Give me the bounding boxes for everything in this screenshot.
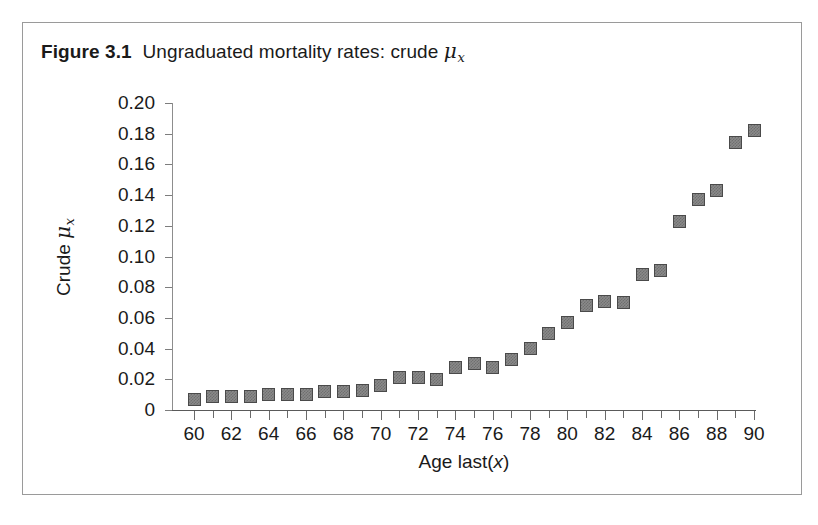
data-point: [617, 296, 630, 309]
figure-label: Figure 3.1: [41, 41, 132, 62]
y-axis-tick: 0.04: [165, 349, 172, 350]
x-axis-tick-label: 90: [743, 423, 764, 445]
y-axis-tick: 0.08: [165, 287, 172, 288]
x-axis-tick-minor: [213, 411, 214, 418]
x-axis-tick-minor: [437, 411, 438, 418]
x-axis-tick-minor: [250, 411, 251, 418]
data-point: [524, 342, 537, 355]
x-axis-title-close: ): [503, 451, 509, 472]
y-axis-mu-symbol: μ: [51, 226, 75, 239]
data-point: [449, 361, 462, 374]
data-point: [748, 124, 761, 137]
x-axis-tick-minor: [661, 411, 662, 418]
x-axis-tick-minor: [623, 411, 624, 418]
x-axis-title: Age last(x): [172, 451, 756, 473]
y-axis-tick-label: 0.16: [118, 153, 155, 175]
y-axis-line: [172, 103, 173, 411]
x-axis-tick-major: [754, 411, 755, 420]
y-axis-mu-subscript: x: [62, 218, 77, 225]
x-axis-tick-minor: [549, 411, 550, 418]
y-axis-tick: 0.18: [165, 134, 172, 135]
x-axis-tick-major: [269, 411, 270, 420]
figure-caption-text: Ungraduated mortality rates: crude: [143, 41, 439, 62]
x-axis-tick-label: 70: [370, 423, 391, 445]
y-axis-tick-label: 0.10: [118, 246, 155, 268]
x-axis-tick-label: 82: [594, 423, 615, 445]
x-axis-tick-label: 88: [706, 423, 727, 445]
data-point: [673, 215, 686, 228]
x-axis-tick-minor: [735, 411, 736, 418]
x-axis-tick-label: 66: [295, 423, 316, 445]
data-point: [244, 390, 257, 403]
y-axis-tick: 0.12: [165, 226, 172, 227]
x-axis-tick-major: [642, 411, 643, 420]
x-axis-line: [172, 410, 756, 411]
data-point: [468, 357, 481, 370]
x-axis-tick-label: 72: [407, 423, 428, 445]
y-axis-tick-label: 0.04: [118, 338, 155, 360]
x-axis-tick-major: [306, 411, 307, 420]
data-point: [710, 184, 723, 197]
y-axis-tick: 0.14: [165, 195, 172, 196]
data-point: [729, 136, 742, 149]
mu-subscript: x: [457, 50, 464, 65]
x-axis-tick-minor: [511, 411, 512, 418]
x-axis-tick-major: [231, 411, 232, 420]
data-point: [225, 390, 238, 403]
y-axis-tick-label: 0.14: [118, 184, 155, 206]
data-point: [561, 316, 574, 329]
y-axis-title-text: Crude: [53, 239, 74, 296]
data-point: [374, 379, 387, 392]
y-axis-tick: 0: [165, 410, 172, 411]
x-axis-tick-major: [418, 411, 419, 420]
mu-symbol: μ: [444, 39, 457, 63]
x-axis-tick-label: 80: [557, 423, 578, 445]
y-axis-title: Crude μx: [51, 218, 77, 296]
data-point: [636, 268, 649, 281]
x-axis-tick-minor: [399, 411, 400, 418]
data-point: [692, 193, 705, 206]
y-axis-tick-label: 0.06: [118, 307, 155, 329]
data-point: [542, 327, 555, 340]
data-point: [598, 295, 611, 308]
x-axis-tick-major: [343, 411, 344, 420]
x-axis-tick-label: 84: [631, 423, 652, 445]
y-axis-tick: 0.06: [165, 318, 172, 319]
y-axis-tick: 0.02: [165, 379, 172, 380]
x-axis-tick-major: [717, 411, 718, 420]
data-point: [412, 371, 425, 384]
x-axis-tick-major: [493, 411, 494, 420]
x-axis-tick-label: 68: [333, 423, 354, 445]
data-point: [188, 393, 201, 406]
y-axis-tick-label: 0.20: [118, 92, 155, 114]
x-axis-tick-label: 78: [519, 423, 540, 445]
y-axis-tick-label: 0: [144, 399, 155, 421]
data-point: [393, 371, 406, 384]
data-point: [262, 388, 275, 401]
data-point: [337, 385, 350, 398]
x-axis-tick-major: [194, 411, 195, 420]
x-axis-title-text: Age last(: [419, 451, 494, 472]
data-point: [356, 384, 369, 397]
data-point: [486, 361, 499, 374]
y-axis-tick-label: 0.12: [118, 215, 155, 237]
data-point: [318, 385, 331, 398]
x-axis-tick-label: 76: [482, 423, 503, 445]
x-axis-tick-label: 64: [258, 423, 279, 445]
data-point: [580, 299, 593, 312]
data-point: [430, 373, 443, 386]
x-axis-tick-label: 62: [221, 423, 242, 445]
x-axis-tick-major: [381, 411, 382, 420]
x-axis-tick-minor: [287, 411, 288, 418]
x-axis-tick-minor: [698, 411, 699, 418]
x-axis-tick-label: 60: [183, 423, 204, 445]
y-axis-tick-label: 0.02: [118, 368, 155, 390]
x-axis-tick-minor: [474, 411, 475, 418]
x-axis-tick-minor: [362, 411, 363, 418]
x-axis-tick-major: [455, 411, 456, 420]
y-axis-tick-label: 0.18: [118, 123, 155, 145]
data-point: [654, 264, 667, 277]
data-point: [300, 388, 313, 401]
x-axis-title-variable: x: [494, 451, 504, 472]
data-point: [505, 353, 518, 366]
